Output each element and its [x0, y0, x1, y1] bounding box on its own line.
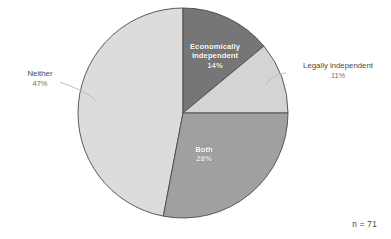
- slice-percent-text: 47%: [8, 79, 72, 89]
- slice-percent-text: 11%: [288, 71, 388, 81]
- slice-label-neither: Neither 47%: [8, 69, 72, 89]
- slice-label-text: Legally independent: [303, 61, 373, 70]
- pie-slice-neither[interactable]: [78, 8, 183, 216]
- sample-size-note: n = 71: [352, 220, 377, 229]
- pie-chart: Economically independent 14% Both 28% Ne…: [0, 0, 391, 239]
- slice-label-legally-independent: Legally independent 11%: [288, 61, 388, 81]
- pie-chart-graphic: [0, 0, 391, 239]
- pie-slice-both[interactable]: [163, 113, 288, 218]
- slice-label-text: Neither: [27, 69, 52, 78]
